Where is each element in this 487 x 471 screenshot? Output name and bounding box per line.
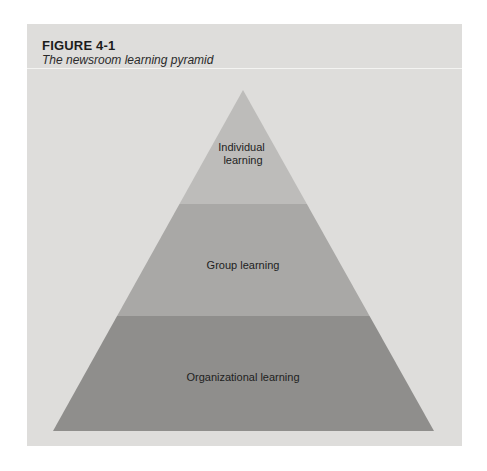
tier-organizational-label-line-1: Organizational learning [186,371,299,383]
learning-pyramid: Individual learning Group learning Organ… [0,0,487,471]
tier-individual-label-line-1: Individual [218,141,264,153]
tier-individual-label-line-2: learning [223,154,262,166]
tier-organizational-label: Organizational learning [186,371,299,383]
tier-individual-label: Individual learning [218,141,268,166]
tier-group-label: Group learning [207,259,280,271]
tier-group-label-line-1: Group learning [207,259,280,271]
